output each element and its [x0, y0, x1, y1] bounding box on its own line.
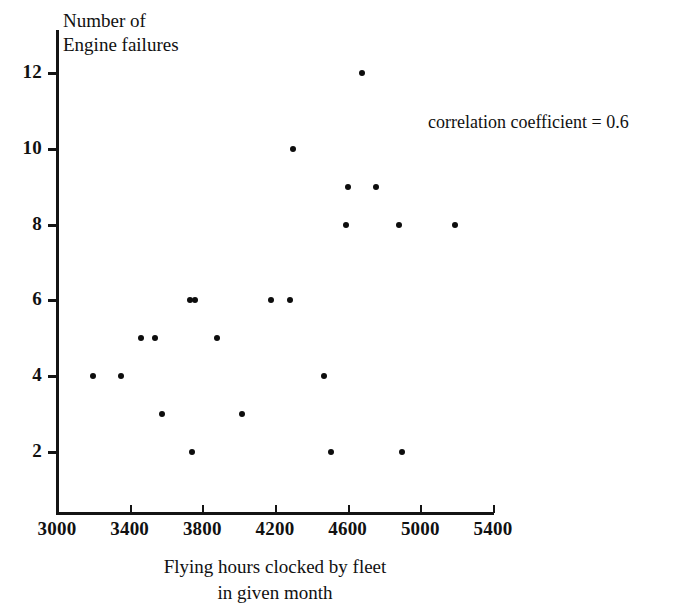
y-tick-label: 2	[6, 440, 42, 462]
x-tick-label: 4200	[240, 518, 310, 540]
x-tick-mark	[202, 505, 204, 513]
y-tick-mark	[48, 224, 57, 227]
y-tick-label: 4	[6, 364, 42, 386]
y-tick-label: 8	[6, 213, 42, 235]
y-tick-label: 6	[6, 288, 42, 310]
data-point	[90, 373, 96, 379]
x-tick-mark	[57, 505, 59, 513]
scatter-plot-figure: 24681012 3000340038004200460050005400 Nu…	[0, 0, 700, 614]
data-point	[373, 184, 379, 190]
data-point	[452, 222, 458, 228]
data-point	[399, 449, 405, 455]
x-tick-label: 3000	[22, 518, 92, 540]
x-tick-mark	[275, 505, 277, 513]
x-tick-mark	[420, 505, 422, 513]
x-tick-label: 3400	[95, 518, 165, 540]
x-axis-title: Flying hours clocked by fleet in given m…	[56, 554, 494, 606]
data-point	[189, 449, 195, 455]
data-point	[268, 297, 274, 303]
x-tick-label: 4600	[313, 518, 383, 540]
x-tick-label: 3800	[167, 518, 237, 540]
data-point	[328, 449, 334, 455]
data-point	[152, 335, 158, 341]
data-point	[214, 335, 220, 341]
y-tick-mark	[48, 148, 57, 151]
data-point	[118, 373, 124, 379]
y-tick-mark	[48, 72, 57, 75]
data-point	[343, 222, 349, 228]
y-tick-mark	[48, 375, 57, 378]
y-tick-label: 10	[6, 137, 42, 159]
data-point	[321, 373, 327, 379]
data-point	[290, 146, 296, 152]
data-point	[359, 70, 365, 76]
correlation-coefficient-annotation: correlation coefficient = 0.6	[428, 112, 629, 133]
y-tick-mark	[48, 451, 57, 454]
y-axis-line	[56, 30, 59, 515]
data-point	[239, 411, 245, 417]
data-point	[345, 184, 351, 190]
x-tick-mark	[348, 505, 350, 513]
y-tick-label: 12	[6, 61, 42, 83]
y-axis-title: Number of Engine failures	[63, 9, 179, 57]
data-point	[287, 297, 293, 303]
data-point	[138, 335, 144, 341]
x-tick-label: 5000	[385, 518, 455, 540]
x-tick-label: 5400	[458, 518, 528, 540]
data-point	[159, 411, 165, 417]
y-tick-mark	[48, 299, 57, 302]
data-point	[192, 297, 198, 303]
x-tick-mark	[493, 505, 495, 513]
data-point	[396, 222, 402, 228]
x-tick-mark	[130, 505, 132, 513]
